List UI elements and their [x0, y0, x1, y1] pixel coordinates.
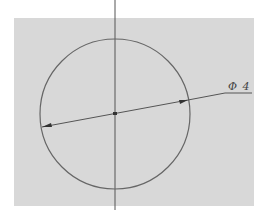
diameter-label: Φ 4: [228, 80, 251, 93]
leader-line: [188, 93, 252, 100]
center-point-icon: [113, 112, 117, 115]
arrowhead-left-icon: [42, 123, 52, 127]
diagram-svg: [0, 0, 265, 220]
arrowhead-right-icon: [179, 100, 188, 104]
